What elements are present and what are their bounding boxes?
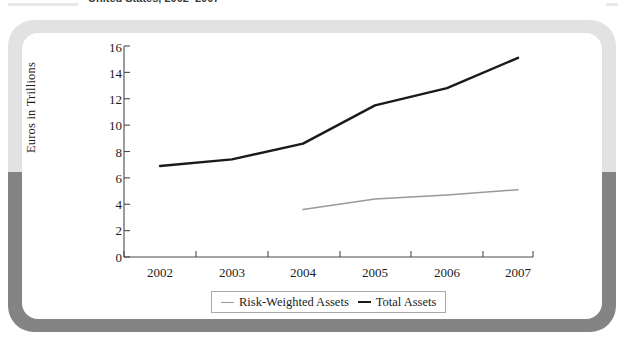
chart-canvas xyxy=(0,0,626,340)
legend-label-risk-weighted-assets: Risk-Weighted Assets xyxy=(239,295,349,310)
chart-legend: Risk-Weighted Assets Total Assets xyxy=(211,291,446,313)
line-chart: Euros in Trillions 16 14 12 10 8 6 4 2 0… xyxy=(0,0,626,340)
legend-item-risk-weighted-assets: Risk-Weighted Assets xyxy=(221,295,349,310)
legend-label-total-assets: Total Assets xyxy=(376,295,437,310)
legend-line-icon-risk-weighted-assets xyxy=(221,302,234,303)
legend-line-icon-total-assets xyxy=(358,301,371,303)
legend-item-total-assets: Total Assets xyxy=(358,295,437,310)
series-line-risk-weighted-assets xyxy=(303,190,518,210)
series-line-total-assets xyxy=(160,58,518,166)
figure-screenshot: United States, 2002–2007 Euros in Trilli… xyxy=(0,0,626,340)
